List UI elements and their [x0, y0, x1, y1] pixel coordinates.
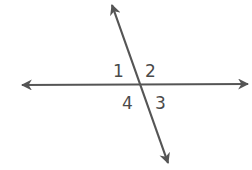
angle-label-2: 2	[145, 61, 156, 81]
angle-label-4: 4	[122, 93, 133, 113]
horizontal-line	[22, 84, 248, 85]
intersecting-lines-diagram: 1 2 4 3	[0, 0, 252, 170]
angle-label-3: 3	[155, 93, 166, 113]
diagram-svg: 1 2 4 3	[0, 0, 252, 170]
angle-label-1: 1	[113, 61, 124, 81]
